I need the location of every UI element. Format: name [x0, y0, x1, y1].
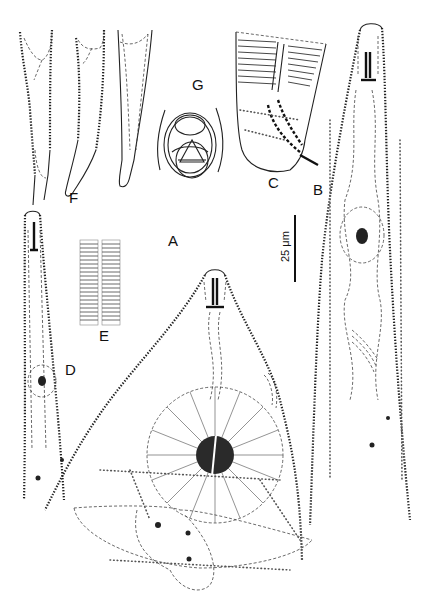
panel-a-anterior: [45, 270, 312, 590]
label-e: E: [99, 328, 109, 343]
panel-g-en-face: [158, 108, 224, 178]
panel-e-striations: [80, 240, 120, 325]
label-d: D: [65, 362, 76, 377]
figure-plate: [0, 0, 430, 601]
panel-b-body: [310, 24, 410, 525]
label-b: B: [313, 182, 323, 197]
panel-f-tails: [20, 30, 152, 205]
label-a: A: [168, 233, 178, 248]
label-g: G: [192, 77, 204, 92]
panel-c-tail: [236, 32, 326, 172]
scale-bar-label: 25 μm: [279, 231, 291, 262]
label-c: C: [268, 175, 279, 190]
label-f: F: [69, 190, 78, 205]
panel-d-body: [24, 211, 64, 500]
